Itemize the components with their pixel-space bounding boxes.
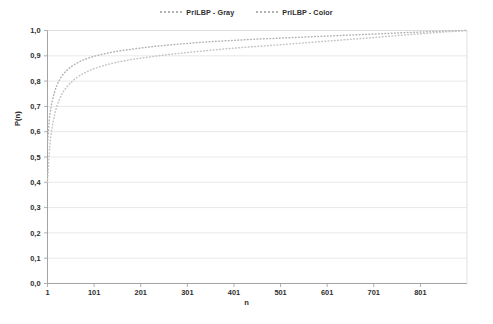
svg-text:201: 201 (135, 288, 147, 297)
svg-text:0,3: 0,3 (30, 203, 40, 212)
svg-text:0,9: 0,9 (30, 51, 40, 60)
svg-text:0,8: 0,8 (30, 77, 40, 86)
x-axis-ticks: 1101201301401501601701801 (45, 284, 426, 298)
svg-text:501: 501 (274, 288, 286, 297)
svg-text:101: 101 (88, 288, 100, 297)
plot-area: 0,00,10,20,30,40,50,60,70,80,91,0 110120… (0, 0, 493, 324)
svg-text:1: 1 (45, 288, 49, 297)
svg-text:1,0: 1,0 (30, 26, 40, 35)
svg-text:701: 701 (368, 288, 380, 297)
chart-container: PriLBP - Gray PriLBP - Color 0,00,10,20,… (0, 0, 493, 324)
gridlines (48, 31, 468, 259)
svg-text:601: 601 (321, 288, 333, 297)
svg-text:0,2: 0,2 (30, 229, 40, 238)
svg-text:401: 401 (228, 288, 240, 297)
svg-text:801: 801 (414, 288, 426, 297)
svg-text:0,1: 0,1 (30, 254, 40, 263)
svg-text:0,5: 0,5 (30, 153, 40, 162)
svg-text:301: 301 (181, 288, 193, 297)
svg-text:0,7: 0,7 (30, 102, 40, 111)
y-axis-label: P(n) (13, 111, 22, 126)
svg-text:0,0: 0,0 (30, 279, 40, 288)
x-axis-label: n (0, 298, 493, 307)
y-axis-ticks: 0,00,10,20,30,40,50,60,70,80,91,0 (30, 26, 47, 288)
svg-text:0,6: 0,6 (30, 127, 40, 136)
svg-text:0,4: 0,4 (30, 178, 41, 187)
